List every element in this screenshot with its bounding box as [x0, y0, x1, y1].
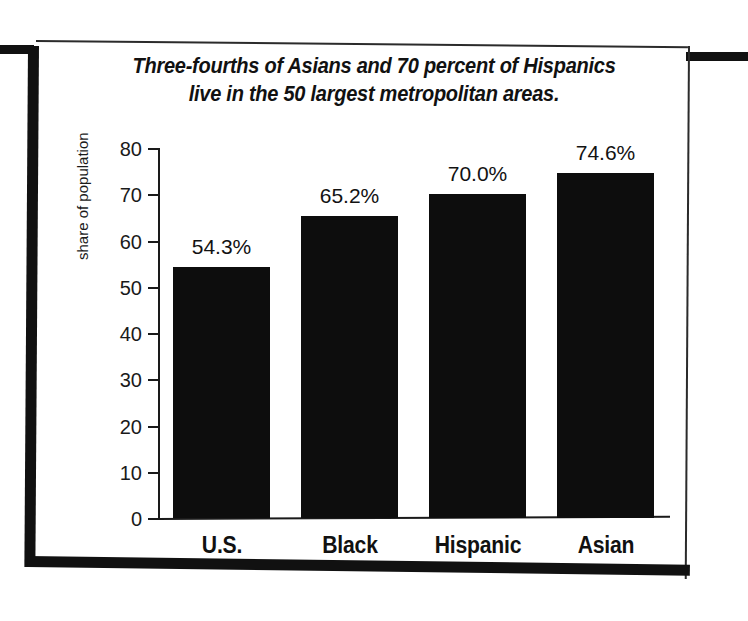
bar: [301, 216, 398, 518]
x-axis-category-label: Hispanic: [434, 532, 521, 559]
bar: [173, 267, 270, 518]
y-axis-tick: 30: [148, 379, 158, 381]
bar-value-label: 74.6%: [576, 141, 636, 165]
chart-title-line-1: Three-fourths of Asians and 70 percent o…: [111, 52, 638, 80]
y-axis-tick-label: 30: [98, 368, 142, 392]
y-axis-title: share of population: [74, 132, 91, 260]
y-axis-tick: 80: [148, 148, 158, 150]
y-axis-tick-label: 60: [98, 230, 142, 254]
y-axis-tick: 20: [148, 426, 158, 428]
bar: [429, 194, 526, 518]
x-axis-category-label: Asian: [577, 532, 634, 559]
y-axis-tick: 10: [148, 472, 158, 474]
y-axis-line: [158, 148, 160, 518]
y-axis-tick-label: 0: [98, 507, 142, 531]
y-axis-tick-label: 40: [98, 322, 142, 346]
y-axis-tick-label: 50: [98, 276, 142, 300]
bar-group: 65.2%Black: [301, 148, 398, 518]
y-axis-tick: 50: [148, 287, 158, 289]
bar-value-label: 65.2%: [320, 184, 380, 208]
chart-title: Three-fourths of Asians and 70 percent o…: [111, 52, 638, 108]
y-axis-tick-label: 70: [98, 183, 142, 207]
y-axis-tick: 60: [148, 241, 158, 243]
frame-right-rule: [685, 46, 690, 579]
bar-group: 54.3%U.S.: [173, 148, 270, 518]
bar-group: 74.6%Asian: [557, 148, 654, 518]
bar-value-label: 54.3%: [192, 235, 252, 259]
chart-title-line-2: live in the 50 largest metropolitan area…: [111, 80, 638, 108]
bar-chart-plot-area: 80706050403020100 share of population 54…: [158, 148, 670, 518]
x-axis-category-label: Black: [322, 532, 378, 559]
y-axis-tick: 40: [148, 333, 158, 335]
x-axis-category-label: U.S.: [201, 532, 241, 559]
frame-right-tab-mark: [686, 52, 748, 61]
frame-left-bar: [24, 46, 39, 567]
y-axis-tick-label: 80: [98, 137, 142, 161]
bar-value-label: 70.0%: [448, 162, 508, 186]
y-axis-tick: 70: [148, 194, 158, 196]
bar-group: 70.0%Hispanic: [429, 148, 526, 518]
y-axis-tick-label: 10: [98, 461, 142, 485]
bar: [557, 173, 654, 518]
frame-top-rule: [36, 40, 688, 48]
y-axis-tick-label: 20: [98, 415, 142, 439]
y-axis-tick: 0: [148, 518, 158, 520]
